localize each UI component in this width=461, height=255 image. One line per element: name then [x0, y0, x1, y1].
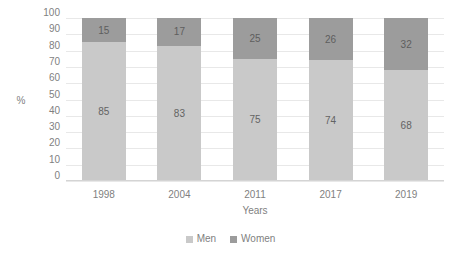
- x-axis-tick-label: 2011: [217, 187, 293, 203]
- y-axis-tick-label: 0: [26, 171, 60, 181]
- gridline: [66, 181, 444, 182]
- bar-value-label-women: 32: [401, 39, 412, 50]
- legend-item-women[interactable]: Women: [230, 234, 275, 244]
- plot-area: 15851783257526743268: [66, 18, 444, 181]
- bar-segment-women[interactable]: 32: [384, 18, 428, 70]
- bar-stack-2011[interactable]: 2575: [233, 18, 277, 181]
- bar-group: 1783: [142, 18, 218, 181]
- y-axis-tick-labels: 1009080706050403020100: [26, 13, 60, 181]
- bar-group: 2575: [217, 18, 293, 181]
- bar-value-label-women: 17: [174, 26, 185, 37]
- legend-label: Men: [197, 234, 216, 244]
- y-axis-tick-label: 20: [26, 138, 60, 148]
- y-axis-tick-label: 90: [26, 24, 60, 34]
- bar-group: 2674: [293, 18, 369, 181]
- y-axis-tick-label: 100: [26, 8, 60, 18]
- bar-stack-2017[interactable]: 2674: [309, 18, 353, 181]
- bar-segment-men[interactable]: 75: [233, 59, 277, 181]
- y-axis-tick-label: 60: [26, 73, 60, 83]
- legend-swatch-icon: [186, 236, 193, 243]
- x-axis-tick-label: 2017: [293, 187, 369, 203]
- x-axis-tick-labels: 19982004201120172019: [66, 187, 444, 203]
- legend-swatch-icon: [230, 236, 237, 243]
- x-axis-tick-label: 2004: [142, 187, 218, 203]
- legend-label: Women: [241, 234, 275, 244]
- bar-group: 3268: [368, 18, 444, 181]
- bar-stack-2004[interactable]: 1783: [157, 18, 201, 181]
- chart-legend: MenWomen: [0, 234, 461, 244]
- bar-segment-women[interactable]: 25: [233, 18, 277, 59]
- bar-segment-men[interactable]: 68: [384, 70, 428, 181]
- y-axis-tick-label: 40: [26, 106, 60, 116]
- y-axis-tick-label: 80: [26, 41, 60, 51]
- bar-stack-1998[interactable]: 1585: [82, 18, 126, 181]
- y-axis-tick-label: 50: [26, 90, 60, 100]
- x-axis-tick-label: 1998: [66, 187, 142, 203]
- y-axis-tick-label: 30: [26, 122, 60, 132]
- bar-value-label-men: 68: [401, 120, 412, 131]
- bar-value-label-women: 26: [325, 34, 336, 45]
- bar-value-label-women: 15: [98, 25, 109, 36]
- bar-value-label-men: 85: [98, 106, 109, 117]
- bar-segment-men[interactable]: 83: [157, 46, 201, 181]
- x-axis-tick-label: 2019: [368, 187, 444, 203]
- bars-layer: 15851783257526743268: [66, 18, 444, 181]
- bar-value-label-women: 25: [249, 33, 260, 44]
- bar-segment-women[interactable]: 17: [157, 18, 201, 46]
- x-axis-line: [66, 180, 444, 181]
- bar-segment-men[interactable]: 74: [309, 60, 353, 181]
- legend-item-men[interactable]: Men: [186, 234, 216, 244]
- y-axis-tick-label: 10: [26, 155, 60, 165]
- bar-group: 1585: [66, 18, 142, 181]
- stacked-bar-chart: % 1009080706050403020100 158517832575267…: [0, 0, 461, 255]
- bar-value-label-men: 74: [325, 115, 336, 126]
- bar-segment-women[interactable]: 26: [309, 18, 353, 60]
- bar-value-label-men: 83: [174, 108, 185, 119]
- bar-segment-women[interactable]: 15: [82, 18, 126, 42]
- bar-value-label-men: 75: [249, 114, 260, 125]
- bar-stack-2019[interactable]: 3268: [384, 18, 428, 181]
- x-axis-title: Years: [66, 205, 444, 216]
- y-axis-tick-label: 70: [26, 57, 60, 67]
- bar-segment-men[interactable]: 85: [82, 42, 126, 181]
